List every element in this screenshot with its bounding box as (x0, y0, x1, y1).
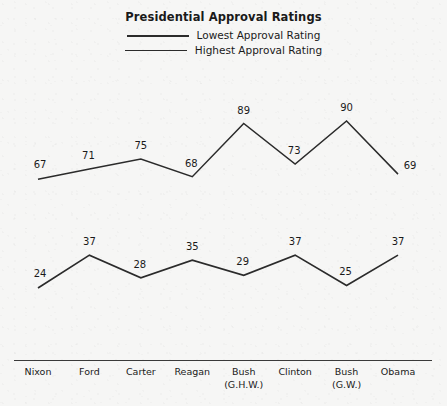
data-label: 71 (82, 151, 95, 161)
category-label-carter: Carter (126, 366, 156, 379)
data-label: 89 (237, 106, 250, 116)
data-label: 69 (404, 161, 417, 171)
data-label: 28 (133, 260, 146, 270)
category-label-bush: Bush(G.W.) (332, 366, 361, 391)
x-axis-rule (14, 360, 432, 361)
plot-area: 24372835293725376771756889739069 (0, 0, 447, 406)
category-label-line: Obama (381, 366, 415, 379)
data-label: 29 (236, 257, 249, 267)
category-label-line: Ford (79, 366, 100, 379)
category-label-obama: Obama (381, 366, 415, 379)
data-label: 37 (392, 237, 405, 247)
category-label-line: Clinton (278, 366, 312, 379)
category-label-line: Carter (126, 366, 156, 379)
data-label: 25 (339, 267, 352, 277)
category-label-line: (G.W.) (332, 379, 361, 392)
category-axis-labels: NixonFordCarterReaganBush(G.H.W.)Clinton… (14, 366, 432, 402)
category-label-line: Bush (224, 366, 263, 379)
category-label-ford: Ford (79, 366, 100, 379)
data-label: 37 (289, 237, 302, 247)
category-label-reagan: Reagan (174, 366, 210, 379)
data-label: 67 (34, 160, 47, 170)
category-label-line: Bush (332, 366, 361, 379)
category-label-line: (G.H.W.) (224, 379, 263, 392)
category-label-bush: Bush(G.H.W.) (224, 366, 263, 391)
approval-ratings-chart: Presidential Approval Ratings Lowest App… (0, 0, 447, 406)
data-label: 37 (83, 237, 96, 247)
data-label: 68 (185, 159, 198, 169)
data-label: 24 (34, 269, 47, 279)
series-lines (0, 0, 447, 406)
data-label: 35 (186, 242, 199, 252)
category-label-clinton: Clinton (278, 366, 312, 379)
data-label: 90 (340, 103, 353, 113)
category-label-nixon: Nixon (25, 366, 52, 379)
category-label-line: Reagan (174, 366, 210, 379)
data-label: 75 (134, 141, 147, 151)
data-label: 73 (288, 146, 301, 156)
category-label-line: Nixon (25, 366, 52, 379)
